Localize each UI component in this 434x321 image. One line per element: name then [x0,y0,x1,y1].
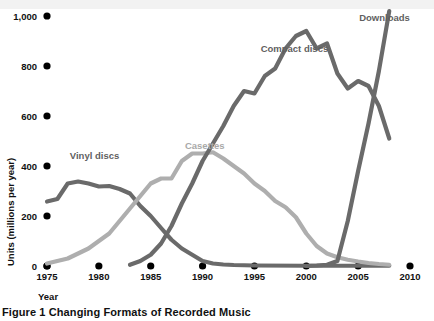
x-tick-label-2000: 2000 [296,271,317,282]
x-tick-label-2005: 2005 [348,271,370,282]
compact-discs-label: Compact discs [261,43,329,54]
y-axis-tick-dots [43,12,50,269]
x-tick-label-1990: 1990 [192,271,213,282]
x-tick-dot-2010 [406,262,413,269]
y-tick-label-400: 400 [21,161,37,172]
downloads-label: Downloads [359,12,410,23]
vinyl-label: Vinyl discs [70,150,119,161]
x-axis-title: Year [38,291,58,302]
x-tick-label-1985: 1985 [140,271,162,282]
figure-caption: Figure 1 Changing Formats of Recorded Mu… [2,306,432,318]
y-tick-dot-600 [43,112,50,119]
x-tick-dot-1985 [147,262,154,269]
y-axis-title-group: Units (millions per year) [5,158,16,266]
x-tick-dot-1980 [95,262,102,269]
series-lines-group [47,11,389,266]
y-tick-label-600: 600 [21,111,37,122]
y-axis-tick-labels: 02004006008001,000 [13,11,37,272]
x-tick-label-1975: 1975 [36,271,58,282]
y-tick-dot-400 [43,162,50,169]
series-annotation-labels: Vinyl discsCasettesCompact discsDownload… [70,12,410,161]
series-line-compact-discs [130,31,389,265]
x-tick-label-2010: 2010 [399,271,420,282]
figure-container: Units (millions per year) 02004006008001… [0,0,434,321]
series-line-casettes [47,152,389,265]
y-tick-label-200: 200 [21,211,37,222]
y-tick-dot-800 [43,62,50,69]
y-tick-label-800: 800 [21,61,37,72]
chart-canvas: Units (millions per year) 02004006008001… [0,0,434,305]
x-tick-label-1980: 1980 [88,271,109,282]
cassettes-label: Casettes [185,140,225,151]
x-tick-label-1995: 1995 [244,271,266,282]
y-tick-dot-1000 [43,12,50,19]
y-tick-label-0: 0 [32,261,37,272]
y-tick-label-1000: 1,000 [13,11,37,22]
x-axis-tick-labels: 19751980198519901995200020052010 [36,271,420,282]
y-axis-title: Units (millions per year) [5,158,16,266]
y-tick-dot-200 [43,212,50,219]
